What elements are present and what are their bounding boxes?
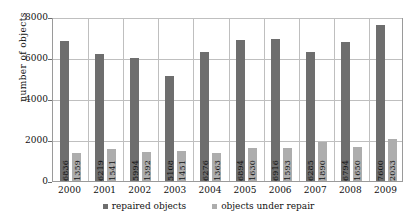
bar-value-label: 6916 [271, 160, 280, 181]
bar-value-label: 1890 [318, 160, 327, 181]
bar: 2033 [388, 139, 397, 181]
y-tick-label: 4000 [8, 94, 48, 104]
legend-item[interactable]: repaired objects [103, 201, 186, 211]
legend-item[interactable]: objects under repair [212, 201, 314, 211]
bar-value-label: 6285 [306, 160, 315, 181]
bar: 6276 [200, 52, 209, 181]
bar-value-label: 1630 [248, 160, 257, 181]
bar-value-label: 6219 [95, 160, 104, 181]
bar-group: 62191541 [88, 19, 123, 181]
bar-group: 62851890 [299, 19, 334, 181]
x-tick-label: 2006 [263, 185, 298, 195]
bar: 1650 [353, 147, 362, 181]
bar-value-label: 7600 [376, 160, 385, 181]
bar: 6285 [306, 52, 315, 181]
x-tick-label: 2007 [298, 185, 333, 195]
bar-group: 69161593 [264, 19, 299, 181]
y-tick-label: 6000 [8, 53, 48, 63]
bar-value-label: 1451 [177, 160, 186, 181]
bar-value-label: 5108 [165, 160, 174, 181]
bar-group: 68941630 [229, 19, 264, 181]
x-tick-label: 2009 [368, 185, 403, 195]
legend-swatch-icon [212, 204, 217, 209]
x-tick-label: 2002 [122, 185, 157, 195]
bar: 1593 [283, 148, 292, 181]
bar: 6916 [271, 39, 280, 181]
bar-value-label: 6276 [200, 160, 209, 181]
bar-group: 51081451 [158, 19, 193, 181]
bar-group: 59941392 [123, 19, 158, 181]
bar: 1541 [107, 149, 116, 181]
bar: 5994 [130, 58, 139, 181]
chart-legend: repaired objectsobjects under repair [0, 201, 417, 211]
bar-value-label: 2033 [388, 160, 397, 181]
legend-swatch-icon [103, 204, 108, 209]
bar-group: 68361359 [53, 19, 88, 181]
y-tick-mark [48, 182, 52, 183]
bar-group: 67941650 [334, 19, 369, 181]
y-tick-label: 8000 [8, 12, 48, 22]
x-tick-label: 2001 [87, 185, 122, 195]
bar-chart: number of objects 02000400060008000 6836… [0, 0, 417, 224]
bar-value-label: 6894 [236, 160, 245, 181]
x-tick-label: 2003 [157, 185, 192, 195]
bar-value-label: 1359 [72, 160, 81, 181]
bar-value-label: 6836 [60, 160, 69, 181]
legend-label: objects under repair [221, 201, 314, 211]
bar-value-label: 1392 [142, 160, 151, 181]
bar: 6794 [341, 42, 350, 181]
x-tick-label: 2000 [52, 185, 87, 195]
bar: 6219 [95, 54, 104, 181]
bar-value-label: 1363 [212, 160, 221, 181]
bar: 1630 [248, 148, 257, 181]
bar: 1890 [318, 142, 327, 181]
x-tick-label: 2008 [333, 185, 368, 195]
legend-label: repaired objects [112, 201, 186, 211]
bar: 1359 [72, 153, 81, 181]
y-tick-label: 2000 [8, 135, 48, 145]
bar-value-label: 1541 [107, 160, 116, 181]
x-tick-label: 2005 [228, 185, 263, 195]
plot-area: 6836135962191541599413925108145162761363… [52, 18, 403, 182]
x-tick-label: 2004 [192, 185, 227, 195]
bar-group: 62761363 [193, 19, 228, 181]
bar: 1392 [142, 152, 151, 181]
bar: 1363 [212, 153, 221, 181]
bar-value-label: 5994 [130, 160, 139, 181]
bar-group: 76002033 [369, 19, 404, 181]
bar-value-label: 6794 [341, 160, 350, 181]
bar-value-label: 1593 [283, 160, 292, 181]
bar-value-label: 1650 [353, 160, 362, 181]
bar: 6836 [60, 41, 69, 181]
bar: 1451 [177, 151, 186, 181]
bar: 7600 [376, 25, 385, 181]
bar: 5108 [165, 76, 174, 181]
y-tick-label: 0 [8, 176, 48, 186]
bar: 6894 [236, 40, 245, 181]
